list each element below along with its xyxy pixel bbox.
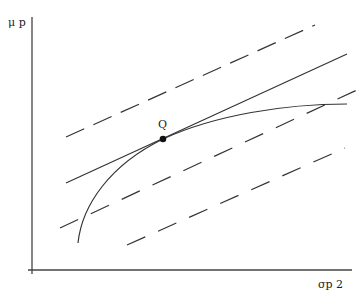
axes <box>28 17 352 274</box>
dashed-line-middle <box>60 90 357 228</box>
dashed-line-top <box>66 25 315 137</box>
y-axis-label: μ p <box>8 16 26 29</box>
tangency-point-q <box>160 136 167 143</box>
diagram-canvas <box>0 0 362 299</box>
x-axis-label: σp 2 <box>318 278 343 291</box>
point-q-label: Q <box>158 118 167 131</box>
dashed-line-bottom <box>127 148 345 245</box>
efficient-frontier-curve <box>78 104 347 243</box>
